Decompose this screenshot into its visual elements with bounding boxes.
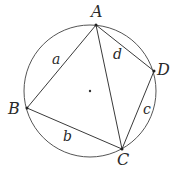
vertex-a-label: A [89,2,103,21]
side-d-label: d [113,46,122,62]
side-a-label: a [52,51,60,67]
vertex-b-label: B [7,99,20,118]
vertex-d-point [153,70,156,73]
side-b-line [27,108,122,149]
vertex-c-label: C [117,150,129,169]
side-a-line [27,25,96,108]
side-c-label: c [143,101,151,117]
vertex-b-point [26,107,29,110]
vertex-a-point [95,24,98,27]
cyclic-quadrilateral-diagram: A B C D a b c d [0,0,176,169]
center-point [89,90,91,92]
side-b-label: b [63,128,72,144]
vertex-d-label: D [156,60,170,79]
diagonal-ac-line [96,25,122,149]
